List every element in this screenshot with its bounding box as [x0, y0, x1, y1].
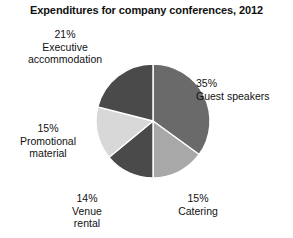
- slice-label-catering: 15% Catering: [160, 192, 236, 217]
- slice-value-executive-accommodation: 21%: [4, 28, 126, 41]
- slice-label-promotional-material: 15% Promotional material: [0, 122, 96, 160]
- slice-name-executive-accommodation-line1: Executive: [4, 41, 126, 54]
- slice-label-venue-rental: 14% Venue rental: [56, 192, 118, 230]
- slice-name-guest-speakers: Guest speakers: [196, 90, 292, 103]
- slice-value-venue-rental: 14%: [56, 192, 118, 205]
- slice-name-venue-rental-line2: rental: [56, 217, 118, 230]
- slice-value-promotional-material: 15%: [0, 122, 96, 135]
- slice-name-venue-rental-line1: Venue: [56, 205, 118, 218]
- slice-name-executive-accommodation-line2: accommodation: [4, 53, 126, 66]
- slice-value-guest-speakers: 35%: [196, 77, 292, 90]
- pie-chart-figure: Expenditures for company conferences, 20…: [0, 0, 293, 238]
- slice-label-executive-accommodation: 21% Executive accommodation: [4, 28, 126, 66]
- slice-name-promotional-material-line2: material: [0, 147, 96, 160]
- slice-value-catering: 15%: [160, 192, 236, 205]
- slice-name-catering: Catering: [160, 205, 236, 218]
- slice-name-promotional-material-line1: Promotional: [0, 135, 96, 148]
- slice-label-guest-speakers: 35% Guest speakers: [196, 77, 292, 102]
